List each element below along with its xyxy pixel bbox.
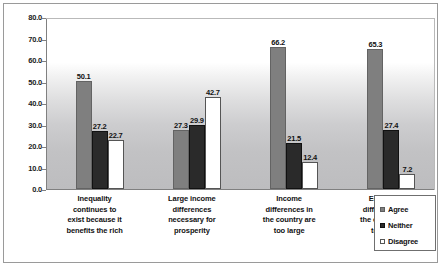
bar-agree[interactable]: 66.2 — [270, 47, 286, 189]
legend-item-disagree[interactable]: Disagree — [380, 233, 435, 249]
bar-group: 66.221.512.4 — [270, 18, 318, 189]
legend-label-agree: Agree — [388, 205, 408, 214]
bar-value-label: 29.9 — [190, 116, 204, 125]
chart-frame: 80.070.060.050.040.030.020.010.00.0 50.1… — [3, 3, 438, 263]
chart-legend: Agree Neither Disagree — [374, 195, 436, 251]
legend-swatch-agree — [380, 207, 385, 212]
y-axis-tick-40-0: 40.0 — [28, 100, 42, 108]
bar-value-label: 27.4 — [384, 121, 398, 130]
bar-value-label: 21.5 — [287, 134, 301, 143]
y-axis-tickmark — [42, 169, 46, 170]
y-axis-tickmark — [42, 40, 46, 41]
plot-right-border — [434, 18, 435, 190]
y-axis-tickmark — [42, 190, 46, 191]
y-axis-tickmark — [42, 18, 46, 19]
y-axis-tickmark — [42, 104, 46, 105]
bar-value-label: 50.1 — [77, 72, 91, 81]
y-axis-tick-80-0: 80.0 — [28, 14, 42, 22]
bar-value-label: 66.2 — [271, 38, 285, 47]
y-axis-tickmark — [42, 126, 46, 127]
legend-item-agree[interactable]: Agree — [380, 201, 435, 217]
y-axis-tick-70-0: 70.0 — [28, 36, 42, 44]
y-axis-tick-10-0: 10.0 — [28, 165, 42, 173]
bar-value-label: 27.3 — [174, 121, 188, 130]
bar-disagree[interactable]: 12.4 — [302, 162, 318, 189]
bar-agree[interactable]: 27.3 — [173, 130, 189, 189]
y-axis-tick-20-0: 20.0 — [28, 143, 42, 151]
y-axis-tickmark — [42, 147, 46, 148]
bar-disagree[interactable]: 7.2 — [399, 174, 415, 189]
y-axis-tickmark — [42, 61, 46, 62]
legend-swatch-disagree — [380, 239, 385, 244]
bar-neither[interactable]: 29.9 — [189, 125, 205, 189]
bar-group: 50.127.222.7 — [76, 18, 124, 189]
bar-value-label: 42.7 — [206, 88, 220, 97]
y-axis-tickmark — [42, 83, 46, 84]
bar-value-label: 65.3 — [368, 40, 382, 49]
bar-disagree[interactable]: 42.7 — [205, 97, 221, 189]
category-label-1: Inequalitycontinues toexist because itbe… — [46, 194, 143, 236]
bar-group: 27.329.942.7 — [173, 18, 221, 189]
y-axis-tick-0-0: 0.0 — [32, 186, 42, 194]
bar-agree[interactable]: 65.3 — [367, 49, 383, 189]
y-axis-tick-50-0: 50.0 — [28, 79, 42, 87]
bar-value-label: 22.7 — [109, 131, 123, 140]
bar-neither[interactable]: 27.2 — [92, 131, 108, 189]
plot-top-border — [46, 18, 435, 19]
legend-label-disagree: Disagree — [388, 237, 418, 246]
plot-area: 50.127.222.727.329.942.766.221.512.465.3… — [46, 18, 435, 190]
bar-value-label: 27.2 — [93, 122, 107, 131]
y-axis-tick-labels: 80.070.060.050.040.030.020.010.00.0 — [10, 18, 42, 190]
bar-neither[interactable]: 27.4 — [383, 130, 399, 189]
legend-label-neither: Neither — [388, 221, 412, 230]
legend-swatch-neither — [380, 223, 385, 228]
bar-agree[interactable]: 50.1 — [76, 81, 92, 189]
legend-item-neither[interactable]: Neither — [380, 217, 435, 233]
y-axis-tick-30-0: 30.0 — [28, 122, 42, 130]
bar-disagree[interactable]: 22.7 — [108, 140, 124, 189]
bar-neither[interactable]: 21.5 — [286, 143, 302, 189]
y-axis-tick-60-0: 60.0 — [28, 57, 42, 65]
bar-group: 65.327.47.2 — [367, 18, 415, 189]
category-label-2: Large incomedifferencesnecessary forpros… — [143, 194, 240, 236]
bar-value-label: 7.2 — [402, 165, 412, 174]
category-label-3: Incomedifferences inthe country aretoo l… — [241, 194, 338, 236]
bar-value-label: 12.4 — [303, 153, 317, 162]
